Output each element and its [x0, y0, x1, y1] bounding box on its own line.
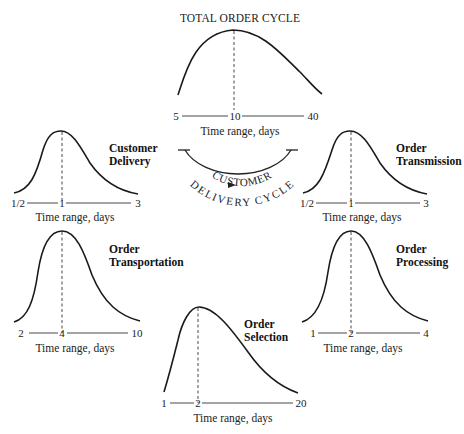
order-selection-tick-max: 20: [296, 397, 308, 409]
total-cycle-tick-max: 40: [308, 110, 320, 122]
total-cycle-tick-min: 5: [173, 110, 179, 122]
order-selection-xlabel: Time range, days: [193, 412, 273, 425]
order-processing-tick-min: 1: [310, 327, 316, 339]
customer-delivery-name-2: Delivery: [109, 155, 151, 168]
order-processing-xlabel: Time range, days: [323, 342, 403, 355]
order-transportation-panel: 2 4 10 Time range, days Order Transporta…: [14, 231, 184, 355]
customer-delivery-tick-max: 3: [135, 197, 141, 209]
order-transmission-name-1: Order: [396, 142, 427, 154]
cycle-arc-line: [185, 150, 291, 174]
order-processing-name-2: Processing: [396, 256, 448, 269]
order-selection-tick-mode: 2: [195, 397, 201, 409]
customer-delivery-cycle-arc: CUSTOMER DELIVERY CYCLE: [178, 150, 298, 208]
order-processing-tick-max: 4: [423, 327, 429, 339]
customer-delivery-xlabel: Time range, days: [35, 211, 115, 224]
customer-delivery-tick-min: 1/2: [11, 197, 25, 209]
order-transportation-xlabel: Time range, days: [35, 342, 115, 355]
order-transmission-tick-min: 1/2: [300, 197, 314, 209]
order-selection-curve: [164, 307, 298, 393]
order-transportation-tick-min: 2: [18, 327, 24, 339]
order-transportation-name-1: Order: [109, 243, 140, 255]
order-transportation-name-2: Transportation: [109, 256, 184, 269]
arc-label-customer: CUSTOMER: [210, 168, 273, 188]
total-cycle-xlabel: Time range, days: [200, 125, 280, 138]
order-processing-name-1: Order: [396, 243, 427, 255]
order-processing-panel: 1 2 4 Time range, days Order Processing: [302, 231, 448, 355]
order-selection-tick-min: 1: [161, 397, 167, 409]
order-transmission-xlabel: Time range, days: [322, 211, 402, 224]
order-processing-tick-mode: 2: [348, 327, 354, 339]
total-cycle-tick-mode: 10: [230, 110, 242, 122]
customer-delivery-panel: 1/2 1 3 Time range, days Customer Delive…: [11, 131, 158, 224]
order-transportation-tick-mode: 4: [59, 327, 65, 339]
order-cycle-diagram: TOTAL ORDER CYCLE 5 10 40 Time range, da…: [0, 0, 464, 434]
order-selection-name-1: Order: [244, 318, 275, 330]
order-transmission-panel: 1/2 1 3 Time range, days Order Transmiss…: [300, 131, 462, 224]
order-transmission-name-2: Transmission: [396, 155, 462, 167]
total-cycle-curve: [178, 30, 322, 95]
order-transmission-tick-max: 3: [423, 197, 429, 209]
customer-delivery-name-1: Customer: [109, 142, 158, 154]
total-cycle-title: TOTAL ORDER CYCLE: [180, 12, 300, 24]
order-selection-name-2: Selection: [244, 331, 289, 343]
order-transmission-tick-mode: 1: [348, 197, 354, 209]
customer-delivery-tick-mode: 1: [59, 197, 65, 209]
total-order-cycle-panel: TOTAL ORDER CYCLE 5 10 40 Time range, da…: [173, 12, 322, 138]
order-transportation-tick-max: 10: [132, 327, 144, 339]
order-selection-panel: 1 2 20 Time range, days Order Selection: [161, 307, 307, 425]
